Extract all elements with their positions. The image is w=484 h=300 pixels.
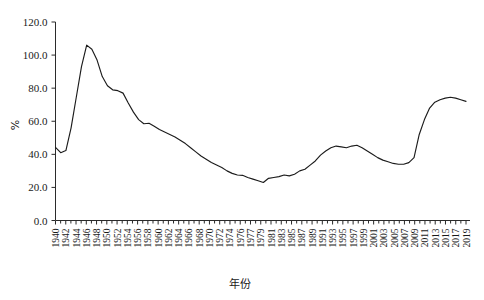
- line-chart: 0.020.040.060.080.0100.0120.0 % 19401942…: [0, 0, 484, 300]
- x-tick-label: 1979: [256, 228, 266, 247]
- x-tick-label: 1995: [338, 228, 348, 247]
- x-tick-label: 1964: [174, 228, 184, 247]
- x-tick-label: 1970: [205, 228, 215, 247]
- x-axis-group: 1940194219441946194819501952195419561958…: [51, 221, 472, 292]
- x-tick-label: 2001: [369, 228, 379, 247]
- x-tick-label: 2005: [390, 228, 400, 247]
- y-tick-label: 80.0: [28, 82, 48, 94]
- x-tick-label: 2009: [410, 228, 420, 247]
- y-axis-group: 0.020.040.060.080.0100.0120.0 %: [9, 16, 56, 227]
- x-tick-label: 1997: [349, 228, 359, 247]
- x-tick-label: 2017: [451, 228, 461, 247]
- y-tick-label: 120.0: [23, 16, 48, 28]
- y-tick-label: 100.0: [23, 49, 48, 61]
- data-series-line: [56, 45, 467, 182]
- chart-container: 0.020.040.060.080.0100.0120.0 % 19401942…: [0, 0, 484, 300]
- x-tick-label: 1948: [92, 228, 102, 247]
- y-tick-label: 60.0: [28, 115, 48, 127]
- x-tick-label: 1987: [297, 228, 307, 247]
- y-tick-group: [52, 22, 56, 221]
- x-tick-label: 1960: [154, 228, 164, 247]
- x-tick-label: 1944: [72, 228, 82, 247]
- x-tick-group: [56, 221, 467, 225]
- x-tick-label: 2013: [431, 228, 441, 247]
- x-tick-label: 2015: [441, 228, 451, 247]
- x-tick-label: 1983: [277, 228, 287, 247]
- x-axis-title: 年份: [229, 277, 251, 291]
- x-tick-label: 1942: [61, 228, 71, 247]
- x-tick-label: 1985: [287, 228, 297, 247]
- x-tick-label: 1976: [236, 228, 246, 247]
- x-tick-label: 1991: [318, 228, 328, 247]
- x-tick-label: 2019: [462, 228, 472, 247]
- x-tick-label: 1952: [113, 228, 123, 247]
- y-tick-label: 20.0: [28, 181, 48, 193]
- y-axis-title: %: [9, 120, 22, 130]
- x-tick-label-group: 1940194219441946194819501952195419561958…: [51, 228, 472, 247]
- y-tick-label-group: 0.020.040.060.080.0100.0120.0: [23, 16, 48, 227]
- x-tick-label: 1981: [267, 228, 277, 247]
- x-tick-label: 1968: [195, 228, 205, 247]
- x-tick-label: 1954: [123, 228, 133, 247]
- x-tick-label: 1962: [164, 228, 174, 247]
- x-tick-label: 1940: [51, 228, 61, 247]
- x-tick-label: 1956: [133, 228, 143, 247]
- x-tick-label: 1974: [225, 228, 235, 247]
- x-tick-label: 1972: [215, 228, 225, 247]
- x-tick-label: 1958: [143, 228, 153, 247]
- x-tick-label: 1946: [82, 228, 92, 247]
- x-tick-label: 1966: [184, 228, 194, 247]
- y-tick-label: 40.0: [28, 148, 48, 160]
- x-tick-label: 2007: [400, 228, 410, 247]
- y-tick-label: 0.0: [34, 215, 48, 227]
- x-tick-label: 1977: [246, 228, 256, 247]
- x-tick-label: 1999: [359, 228, 369, 247]
- x-tick-label: 2011: [420, 228, 430, 247]
- x-tick-label: 1989: [308, 228, 318, 247]
- x-tick-label: 1950: [102, 228, 112, 247]
- x-tick-label: 2003: [379, 228, 389, 247]
- x-tick-label: 1993: [328, 228, 338, 247]
